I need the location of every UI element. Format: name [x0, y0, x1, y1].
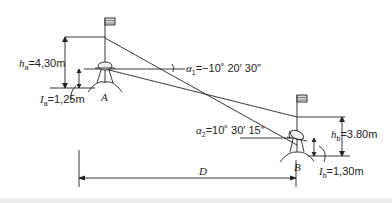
label-hb: hb=3.80m — [331, 129, 377, 142]
bottom-divider — [0, 198, 392, 203]
label-alpha2: α2=10˚ 30′ 15″ — [196, 125, 265, 138]
flag-b-icon — [297, 95, 307, 102]
sight-line-a-to-b-target — [105, 69, 297, 117]
instrument-a-icon — [88, 62, 122, 92]
label-ia: Ia=1,25m — [40, 94, 85, 107]
label-ha: ha=4,30m — [19, 58, 65, 71]
station-b-label: B — [294, 162, 301, 173]
station-a-label: A — [101, 92, 108, 103]
instrument-b-icon — [280, 128, 314, 162]
flag-a-icon — [105, 18, 115, 25]
label-alpha1: α1=−10˚ 20′ 30″ — [186, 63, 261, 76]
label-ib: Ib=1,30m — [319, 166, 364, 179]
label-distance: D — [199, 166, 207, 177]
